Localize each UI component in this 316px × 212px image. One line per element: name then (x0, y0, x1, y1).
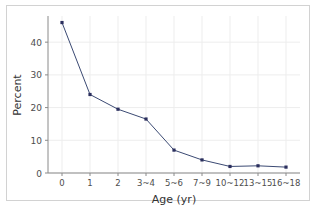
x-tick-label: 2 (115, 178, 120, 188)
percent-by-age-line-chart: 010203040 0123~45~67~910~1213~1516~18 Pe… (0, 0, 316, 212)
data-point-marker (144, 117, 147, 120)
y-tick-label: 20 (31, 103, 43, 113)
plot-area-background (48, 16, 296, 173)
y-tick-label: 10 (31, 136, 43, 146)
data-point-marker (256, 164, 259, 167)
x-tick-label: 13~15 (244, 178, 273, 188)
x-tick-label: 1 (87, 178, 92, 188)
x-axis-tick-labels: 0123~45~67~910~1213~1516~18 (59, 178, 300, 188)
x-tick-label: 10~12 (216, 178, 245, 188)
y-tick-label: 40 (31, 38, 43, 48)
data-point-marker (88, 93, 91, 96)
x-tick-label: 5~6 (165, 178, 183, 188)
data-point-marker (228, 165, 231, 168)
y-tick-label: 30 (31, 70, 43, 80)
x-tick-label: 16~18 (272, 178, 301, 188)
data-point-marker (284, 166, 287, 169)
x-tick-label: 3~4 (137, 178, 155, 188)
y-axis-tick-labels: 010203040 (31, 38, 43, 179)
x-axis-title: Age (yr) (152, 193, 196, 206)
chart-figure: 010203040 0123~45~67~910~1213~1516~18 Pe… (0, 0, 316, 212)
data-point-marker (200, 158, 203, 161)
data-point-marker (116, 108, 119, 111)
y-tick-label: 0 (36, 169, 42, 179)
data-point-marker (60, 21, 63, 24)
data-point-marker (172, 149, 175, 152)
x-tick-label: 0 (59, 178, 64, 188)
x-tick-label: 7~9 (193, 178, 211, 188)
y-axis-title: Percent (11, 74, 24, 116)
